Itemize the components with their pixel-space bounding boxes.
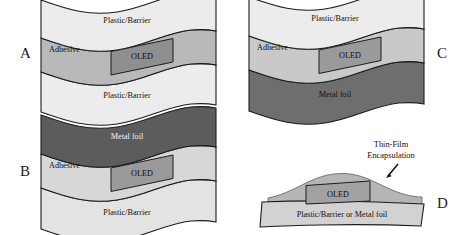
panel-letter-b: B bbox=[20, 164, 30, 179]
panel-d: OLED Plastic/Barrier or Metal foil bbox=[258, 168, 428, 230]
layer-label-substrate: Plastic/Barrier or Metal foil bbox=[297, 210, 388, 219]
layer-label-top-plastic-barrier: Plastic/Barrier bbox=[103, 16, 151, 25]
device-label-oled: OLED bbox=[339, 51, 361, 60]
device-label-oled: OLED bbox=[327, 190, 349, 199]
layer-label-bottom-plastic-barrier: Plastic/Barrier bbox=[103, 91, 151, 100]
panel-d-graphic: OLED Plastic/Barrier or Metal foil bbox=[258, 168, 428, 230]
layer-label-adhesive: Adhesive bbox=[257, 43, 288, 52]
panel-c: Plastic/Barrier Adhesive OLED Metal foil bbox=[249, 8, 424, 112]
layer-label-metal-foil: Metal foil bbox=[111, 132, 144, 141]
panel-a: Plastic/Barrier Adhesive OLED Plastic/Ba… bbox=[41, 8, 216, 112]
layer-label-adhesive: Adhesive bbox=[49, 161, 80, 170]
arrow-down-left-icon bbox=[386, 164, 398, 178]
panel-letter-a: A bbox=[20, 46, 31, 61]
panel-letter-d: D bbox=[437, 196, 448, 211]
layer-label-plastic-barrier: Plastic/Barrier bbox=[103, 208, 151, 217]
panel-c-graphic: Plastic/Barrier Adhesive OLED Metal foil bbox=[249, 8, 424, 112]
device-label-oled: OLED bbox=[131, 169, 153, 178]
layer-label-metal-foil: Metal foil bbox=[319, 90, 352, 99]
panel-letter-c: C bbox=[437, 46, 447, 61]
panel-b-graphic: Metal foil Adhesive OLED Plastic/Barrier bbox=[41, 126, 216, 230]
callout-line-2: Encapsulation bbox=[336, 151, 446, 162]
panel-b: Metal foil Adhesive OLED Plastic/Barrier bbox=[41, 126, 216, 230]
oled-encapsulation-figure: Plastic/Barrier Adhesive OLED Plastic/Ba… bbox=[0, 0, 463, 235]
layer-label-adhesive: Adhesive bbox=[49, 45, 80, 54]
panel-a-graphic: Plastic/Barrier Adhesive OLED Plastic/Ba… bbox=[41, 8, 216, 112]
callout-line-1: Thin-Film bbox=[336, 140, 446, 151]
layer-label-plastic-barrier: Plastic/Barrier bbox=[311, 14, 359, 23]
device-label-oled: OLED bbox=[131, 52, 153, 61]
thin-film-encapsulation-callout: Thin-Film Encapsulation bbox=[336, 140, 446, 161]
